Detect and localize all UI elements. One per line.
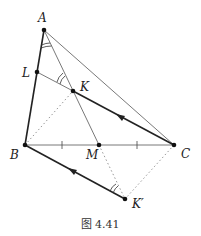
point-C	[172, 143, 177, 148]
segment-AM	[44, 30, 99, 145]
label-A: A	[37, 11, 47, 25]
angle-mark-A	[42, 43, 51, 45]
point-A	[42, 28, 47, 33]
geometry-figure: A B C M L K K′ 图 4.41	[0, 0, 201, 236]
arrowhead-CK	[116, 114, 125, 121]
label-B: B	[9, 148, 19, 162]
label-K-prime: K′	[131, 197, 144, 211]
point-K	[71, 89, 76, 94]
segment-LK	[37, 72, 73, 91]
point-L	[35, 70, 40, 75]
arrowhead-K'B	[68, 168, 77, 175]
angle-mark-K'-2	[113, 186, 118, 193]
label-L: L	[21, 66, 30, 80]
angle-mark-K'	[110, 184, 116, 191]
point-B	[23, 143, 28, 148]
segment-AB	[25, 30, 44, 145]
label-C: C	[181, 147, 190, 161]
angle-mark-K-2	[57, 73, 63, 82]
dotted-CK'	[125, 145, 174, 199]
label-M: M	[85, 148, 99, 162]
point-K-prime	[123, 197, 128, 202]
point-M	[97, 143, 102, 148]
label-K: K	[79, 80, 90, 94]
dotted-MK'	[99, 145, 125, 199]
angle-mark-A-2	[41, 46, 52, 48]
segment-AC	[44, 30, 174, 145]
angle-mark-K	[60, 76, 65, 84]
figure-caption: 图 4.41	[81, 218, 120, 231]
